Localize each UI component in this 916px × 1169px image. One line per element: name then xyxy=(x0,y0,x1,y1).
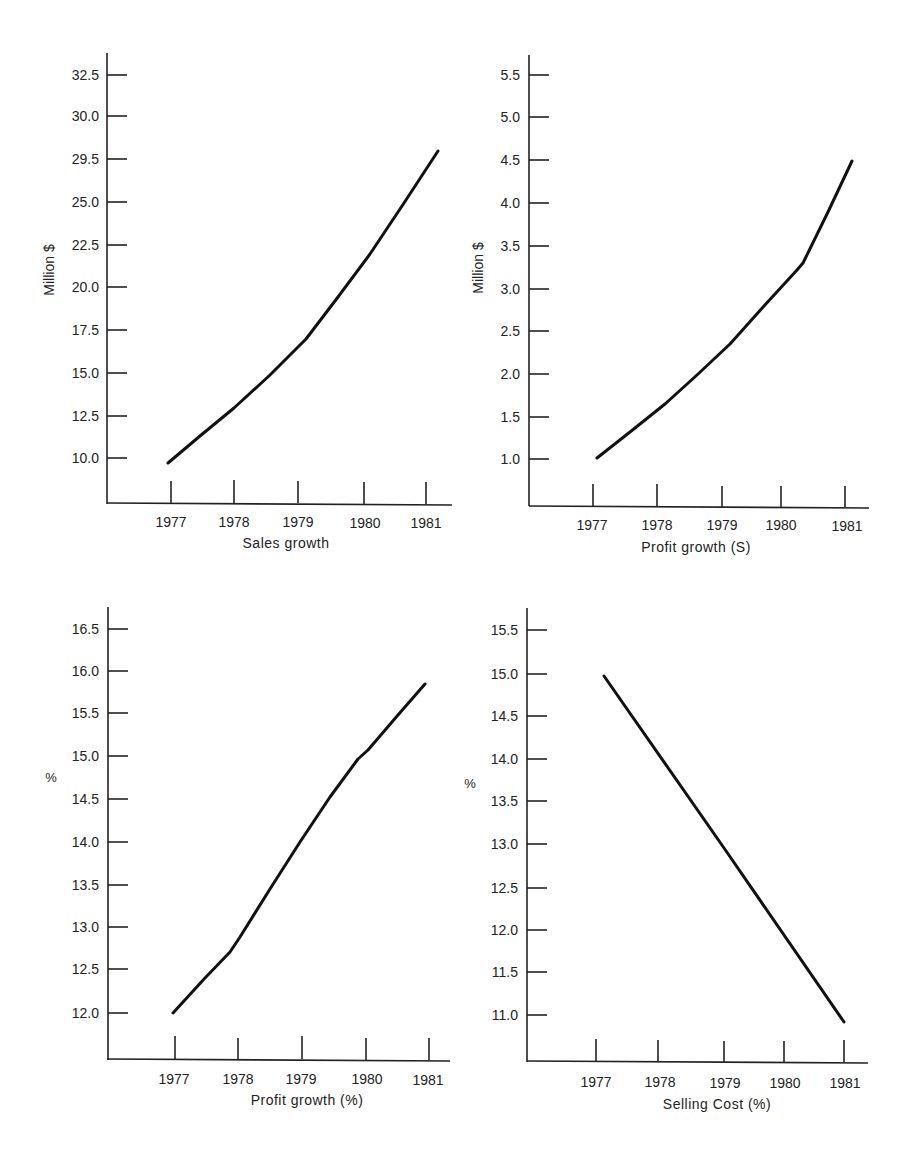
y-tick-label: 5.5 xyxy=(501,67,521,83)
y-tick-label: 15.5 xyxy=(491,622,518,638)
data-line xyxy=(168,151,438,463)
y-tick-label: 3.5 xyxy=(501,238,521,254)
x-tick-label: 1978 xyxy=(218,514,249,530)
y-tick-label: 32.5 xyxy=(72,67,99,83)
y-tick-label: 17.5 xyxy=(72,322,99,338)
x-tick-label: 1981 xyxy=(412,1072,443,1088)
y-tick-label: 30.0 xyxy=(72,108,99,124)
x-tick-label: 1977 xyxy=(580,1074,611,1090)
y-tick-labels: 15.5 15.0 14.5 14.0 13.5 13.0 12.5 12.0 … xyxy=(491,622,518,1023)
y-tick-label: 15.0 xyxy=(491,666,518,682)
x-axis-title: Sales growth xyxy=(243,535,330,551)
y-axis xyxy=(529,55,549,506)
x-tick-label: 1980 xyxy=(349,515,380,531)
y-tick-label: 16.0 xyxy=(72,663,99,679)
x-tick-label: 1979 xyxy=(709,1075,740,1091)
y-axis-title: % xyxy=(45,770,57,785)
x-axis-title: Selling Cost (%) xyxy=(663,1096,771,1112)
y-tick-labels: 32.5 30.0 29.5 25.0 22.5 20.0 17.5 15.0 … xyxy=(72,67,99,466)
y-tick-label: 15.5 xyxy=(72,705,99,721)
y-axis xyxy=(527,608,547,1062)
x-tick-label: 1977 xyxy=(158,1071,189,1087)
x-tick-label: 1981 xyxy=(410,515,441,531)
x-axis-title: Profit growth (%) xyxy=(251,1092,364,1108)
y-tick-label: 12.5 xyxy=(72,408,99,424)
chart-grid: 32.5 30.0 29.5 25.0 22.5 20.0 17.5 15.0 … xyxy=(0,0,916,1169)
x-tick-labels: 1977 1978 1979 1980 1981 xyxy=(155,514,441,531)
x-axis xyxy=(107,1036,450,1061)
chart-sales-growth: 32.5 30.0 29.5 25.0 22.5 20.0 17.5 15.0 … xyxy=(41,53,452,551)
x-axis xyxy=(529,484,869,508)
y-tick-label: 4.0 xyxy=(501,195,521,211)
data-line xyxy=(597,161,852,458)
y-tick-label: 13.0 xyxy=(72,919,99,935)
y-tick-label: 29.5 xyxy=(72,151,99,167)
x-tick-labels: 1977 1978 1979 1980 1981 xyxy=(158,1071,443,1088)
chart-selling-cost: 15.5 15.0 14.5 14.0 13.5 13.0 12.5 12.0 … xyxy=(464,608,868,1112)
y-tick-label: 11.0 xyxy=(492,1007,518,1023)
y-tick-label: 10.0 xyxy=(72,450,99,466)
x-tick-label: 1981 xyxy=(831,518,862,534)
y-tick-label: 1.0 xyxy=(501,451,521,467)
y-tick-label: 2.5 xyxy=(501,323,521,339)
y-tick-label: 2.0 xyxy=(501,366,521,382)
y-tick-label: 12.5 xyxy=(72,961,99,977)
y-tick-label: 13.5 xyxy=(491,793,518,809)
data-line xyxy=(173,684,425,1013)
y-tick-labels: 5.5 5.0 4.5 4.0 3.5 3.0 2.5 2.0 1.5 1.0 xyxy=(501,67,521,467)
data-line xyxy=(604,676,844,1022)
y-tick-label: 12.5 xyxy=(491,880,518,896)
y-tick-label: 14.5 xyxy=(72,791,99,807)
y-tick-labels: 16.5 16.0 15.5 15.0 14.5 14.0 13.5 13.0 … xyxy=(72,621,99,1021)
y-tick-label: 11.5 xyxy=(492,964,518,980)
y-tick-label: 13.0 xyxy=(491,836,518,852)
y-tick-label: 16.5 xyxy=(72,621,99,637)
y-tick-label: 3.0 xyxy=(501,281,521,297)
x-axis-title: Profit growth (S) xyxy=(641,539,751,555)
y-axis-title: % xyxy=(464,776,476,791)
y-tick-label: 14.0 xyxy=(491,751,518,767)
x-tick-label: 1980 xyxy=(769,1075,800,1091)
x-axis xyxy=(527,1039,868,1063)
x-tick-label: 1980 xyxy=(765,517,796,533)
y-tick-label: 15.0 xyxy=(72,365,99,381)
x-tick-label: 1977 xyxy=(576,517,607,533)
y-tick-label: 14.5 xyxy=(491,708,518,724)
y-tick-label: 20.0 xyxy=(72,279,99,295)
x-tick-label: 1978 xyxy=(641,517,672,533)
x-tick-label: 1979 xyxy=(285,1071,316,1087)
y-tick-label: 4.5 xyxy=(501,152,521,168)
x-tick-label: 1978 xyxy=(644,1074,675,1090)
y-tick-label: 5.0 xyxy=(501,109,521,125)
y-tick-label: 1.5 xyxy=(501,409,521,425)
chart-profit-growth-percent: 16.5 16.0 15.5 15.0 14.5 14.0 13.5 13.0 … xyxy=(45,607,450,1108)
y-axis-title: Million $ xyxy=(470,242,486,294)
x-axis xyxy=(107,480,452,505)
x-tick-label: 1979 xyxy=(282,514,313,530)
y-axis-title: Million $ xyxy=(41,244,57,296)
chart-profit-growth-dollars: 5.5 5.0 4.5 4.0 3.5 3.0 2.5 2.0 1.5 1.0 … xyxy=(470,55,869,555)
x-tick-labels: 1977 1978 1979 1980 1981 xyxy=(580,1074,860,1091)
y-tick-label: 12.0 xyxy=(72,1005,99,1021)
x-tick-label: 1981 xyxy=(829,1075,860,1091)
y-tick-label: 25.0 xyxy=(72,194,99,210)
x-tick-labels: 1977 1978 1979 1980 1981 xyxy=(576,517,862,534)
x-tick-label: 1978 xyxy=(222,1071,253,1087)
x-tick-label: 1977 xyxy=(155,514,186,530)
x-tick-label: 1979 xyxy=(706,517,737,533)
y-tick-label: 14.0 xyxy=(72,834,99,850)
y-axis xyxy=(107,53,127,504)
y-axis xyxy=(108,607,128,1060)
y-tick-label: 12.0 xyxy=(491,922,518,938)
y-tick-label: 22.5 xyxy=(72,237,99,253)
y-tick-label: 13.5 xyxy=(72,877,99,893)
x-tick-label: 1980 xyxy=(351,1071,382,1087)
y-tick-label: 15.0 xyxy=(72,748,99,764)
